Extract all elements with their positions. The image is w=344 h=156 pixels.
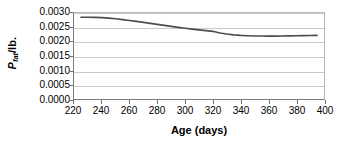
x-axis-tick-label: 400 (305, 105, 344, 117)
y-axis-tick-label: 0.0030 (20, 7, 70, 17)
x-axis-tick-mark (325, 100, 326, 104)
plot-area (73, 12, 325, 100)
x-axis-tick-mark (297, 100, 298, 104)
chart-container: Pfat/lb. 0.00000.00050.00100.00150.00200… (0, 0, 344, 156)
y-axis-tick-label: 0.0010 (20, 66, 70, 76)
y-axis-title-subscript: fat (11, 53, 20, 62)
x-axis-tick-mark (129, 100, 130, 104)
y-axis-tick-label: 0.0000 (20, 95, 70, 105)
x-axis-tick-mark (101, 100, 102, 104)
y-axis-title-symbol: P (6, 62, 18, 69)
x-axis-tick-mark (157, 100, 158, 104)
x-axis-title: Age (days) (73, 124, 325, 136)
x-axis-tick-mark (213, 100, 214, 104)
y-axis-title-unit: /lb. (6, 37, 18, 53)
x-axis-tick-mark (241, 100, 242, 104)
y-axis-tick-labels: 0.00000.00050.00100.00150.00200.00250.00… (20, 5, 70, 106)
x-axis-tick-mark (185, 100, 186, 104)
y-axis-tick-label: 0.0025 (20, 22, 70, 32)
x-axis-tick-mark (73, 100, 74, 104)
y-axis-tick-label: 0.0020 (20, 36, 70, 46)
series-path (81, 17, 317, 36)
y-axis-tick-label: 0.0005 (20, 80, 70, 90)
x-axis-tick-mark (269, 100, 270, 104)
y-axis-tick-label: 0.0015 (20, 51, 70, 61)
x-axis-tick-labels: 220240260280300320340360380400 (73, 105, 326, 119)
series-line-fat-p-per-lb (74, 13, 324, 99)
